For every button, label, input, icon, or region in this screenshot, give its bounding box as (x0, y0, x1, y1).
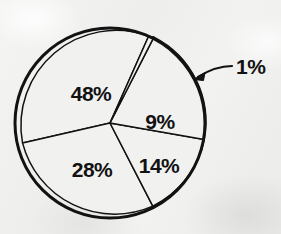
pie-label-28: 28% (72, 158, 113, 181)
callout-arrow-1pct (194, 66, 233, 81)
pie-label-14: 14% (139, 154, 180, 177)
pie-label-48: 48% (71, 82, 112, 105)
pie-label-9: 9% (145, 110, 175, 133)
pie-label-1: 1% (236, 55, 266, 78)
pie-chart-figure: 48% 28% 14% 9% 1% (0, 0, 281, 234)
pie-chart-canvas: 48% 28% 14% 9% 1% (0, 0, 281, 234)
